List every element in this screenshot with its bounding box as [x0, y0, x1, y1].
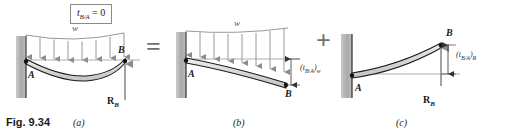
load-label-a: w: [72, 24, 78, 33]
panel-caption-b: (b): [233, 118, 245, 128]
reaction-label-a: RB: [107, 96, 119, 109]
deflected-beam-c: [352, 43, 441, 78]
deflection-sub-b: B/A: [305, 68, 314, 74]
fixed-end-node-a: [24, 59, 28, 63]
free-end-node-c: [439, 43, 443, 47]
figure-caption: Fig. 9.34: [6, 117, 50, 128]
deflected-beam-b: [186, 58, 286, 88]
deflected-beam-a: [26, 59, 125, 81]
panel-caption-a: (a): [73, 118, 85, 128]
point-label-a-panel-b: A: [188, 69, 195, 79]
reaction-subscript-c: B: [430, 100, 435, 108]
reaction-subscript-a: B: [114, 101, 119, 109]
point-label-b-panel-a: B: [118, 45, 125, 55]
point-label-b-panel-b: B: [285, 89, 292, 99]
deflection-sub-c: B/A: [461, 55, 470, 61]
load-label-b: w: [234, 19, 240, 28]
panel-caption-c: (c): [396, 118, 407, 128]
condition-box: tB/A = 0: [70, 4, 112, 24]
point-label-b-panel-c: B: [446, 28, 453, 38]
fixed-end-node-b: [184, 58, 188, 62]
deflection-sub2-c: R: [473, 55, 477, 61]
equals-sign: =: [146, 34, 161, 60]
fixed-end-node-c: [350, 73, 354, 77]
plus-sign: +: [316, 28, 331, 54]
condition-subscript: B/A: [80, 13, 90, 20]
wall-support-b: [176, 32, 186, 98]
figure-9-34: tB/A = 0 = + w A B RB w A B (tB/A)w A B …: [0, 0, 505, 134]
panel-b-graphics: [176, 28, 300, 98]
point-label-a-panel-c: A: [355, 83, 362, 93]
deflection-sub2-b: w: [317, 68, 321, 74]
condition-equation: = 0: [92, 7, 105, 18]
wall-support-a: [16, 36, 26, 98]
deflection-label-c: (tB/A)R: [456, 51, 476, 61]
point-label-a-panel-a: A: [28, 70, 35, 80]
load-distribution-curve-b: [186, 28, 288, 32]
support-node-b-a: [123, 59, 127, 63]
deflection-label-b: (tB/A)w: [300, 64, 321, 74]
reaction-label-c: RB: [423, 95, 435, 108]
load-distribution-curve-a: [26, 33, 124, 39]
wall-support-c: [341, 34, 352, 98]
